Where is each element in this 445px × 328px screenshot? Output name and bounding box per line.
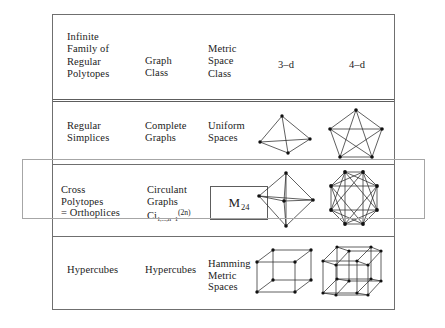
cell-graph-class: Hypercubes <box>145 264 215 276</box>
circulant-graph-formula: Ci1,...,n−1(2n) <box>147 207 191 224</box>
octagon-16-cell-figure <box>321 168 387 232</box>
cell-graph-class: Complete Graphs <box>145 120 215 143</box>
document-page: Infinite Family of Regular Polytopes Gra… <box>0 0 445 328</box>
tesseract-figure <box>319 241 389 305</box>
formula-superscript: (2n) <box>178 208 191 217</box>
table-row: Cross Polytopes = Orthoplices Circulant … <box>53 164 394 236</box>
m24-index: 24 <box>240 202 250 212</box>
table-row: Regular Simplices Complete Graphs Unifor… <box>53 102 394 164</box>
table-row: Hypercubes Hypercubes Hamming Metric Spa… <box>53 236 394 310</box>
cell-family: Cross Polytopes = Orthoplices <box>61 184 145 219</box>
cell-family: Hypercubes <box>67 264 141 276</box>
table-header-row: Infinite Family of Regular Polytopes Gra… <box>53 15 394 99</box>
cell-family: Regular Simplices <box>67 120 141 143</box>
formula-subscript: 1,...,n−1 <box>157 215 178 222</box>
formula-base: Ci <box>147 210 157 221</box>
pentagon-k5-figure <box>325 107 387 161</box>
tetrahedron-k4-figure <box>256 112 318 158</box>
column-header-4d: 4–d <box>321 59 393 71</box>
column-header-family: Infinite Family of Regular Polytopes <box>67 31 141 81</box>
octahedron-figure <box>253 170 319 230</box>
cell-graph-class: Circulant Graphs <box>147 184 215 207</box>
column-header-3d: 3–d <box>253 59 319 71</box>
column-header-graph-class: Graph Class <box>145 55 215 80</box>
m24-symbol: M24 <box>228 195 249 212</box>
cube-figure <box>253 246 319 298</box>
m24-letter: M <box>228 195 240 210</box>
polytope-table: Infinite Family of Regular Polytopes Gra… <box>52 14 395 310</box>
